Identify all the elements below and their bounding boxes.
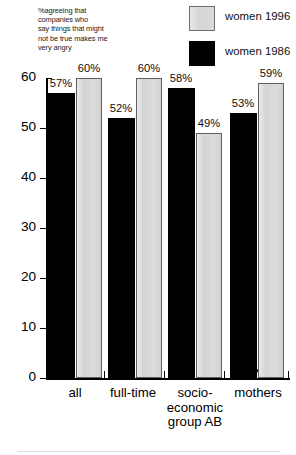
y-tick-label-30: 30: [2, 220, 36, 234]
bar-all-women-1996: [76, 78, 102, 378]
bar-socioeconomic-women-1986: [168, 88, 195, 378]
y-tick-label-0: 0: [2, 370, 36, 384]
y-tick-label-60: 60: [2, 70, 36, 84]
bar-socioeconomic-women-1996: [196, 133, 222, 378]
y-tick-label-40: 40: [2, 170, 36, 184]
x-tick-2: [164, 371, 165, 379]
bar-value-all-women-1986: 57%: [42, 78, 80, 89]
x-tick-3: [224, 371, 225, 379]
bar-value-all-women-1996: 60%: [70, 63, 108, 74]
bar-all-women-1986: [48, 93, 75, 378]
bar-value-socioeconomic-women-1996: 49%: [190, 118, 228, 129]
x-label-mothers: mothers: [222, 386, 294, 401]
y-tick-0: [40, 378, 46, 379]
y-tick-40: [40, 178, 46, 179]
x-tick-1: [104, 371, 105, 379]
y-tick-50: [40, 128, 46, 129]
x-tick-4: [288, 371, 289, 379]
bar-mothers-women-1986: [230, 113, 257, 378]
bottom-rule: [18, 451, 280, 452]
y-tick-10: [40, 328, 46, 329]
bar-chart: %agreeing that companies who say things …: [0, 0, 296, 455]
bar-mothers-women-1996: [258, 83, 284, 378]
x-axis-line: [46, 378, 290, 380]
y-tick-label-10: 10: [2, 320, 36, 334]
y-tick-30: [40, 228, 46, 229]
bar-fulltime-women-1986: [108, 118, 135, 378]
x-label-socio-economic-group-ab: socio- economic group AB: [158, 386, 232, 430]
y-tick-label-50: 50: [2, 120, 36, 134]
bar-value-socioeconomic-women-1986: 58%: [162, 73, 200, 84]
bar-value-fulltime-women-1986: 52%: [102, 103, 140, 114]
bar-fulltime-women-1996: [136, 78, 162, 378]
bar-value-mothers-women-1996: 59%: [252, 68, 290, 79]
y-tick-label-20: 20: [2, 270, 36, 284]
y-tick-20: [40, 278, 46, 279]
plot-area: 60 50 40 30 20 10 0 57% 60% 52% 60% 58% …: [0, 0, 296, 455]
bar-value-mothers-women-1986: 53%: [224, 98, 262, 109]
